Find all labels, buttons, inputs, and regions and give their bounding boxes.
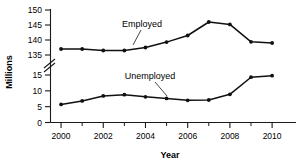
data-point (122, 93, 126, 97)
data-point (249, 75, 253, 79)
data-point (165, 97, 169, 101)
x-tick-label: 2008 (220, 131, 239, 141)
y-tick-label: 135 (28, 50, 42, 60)
data-point (228, 92, 232, 96)
data-point (270, 41, 274, 45)
y-tick-label: 5 (37, 102, 42, 112)
x-tick-label: 2010 (263, 131, 282, 141)
y-axis-title: Millions (4, 55, 14, 89)
data-series-group (59, 20, 274, 106)
data-point (101, 94, 105, 98)
data-point (144, 95, 148, 99)
y-tick-label: 0 (37, 118, 42, 128)
data-point (207, 20, 211, 24)
y-tick-label: 140 (28, 35, 42, 45)
y-tick-label: 150 (28, 5, 42, 15)
data-point (186, 34, 190, 38)
series-line-employed (61, 22, 272, 51)
series-employed (59, 20, 274, 52)
y-tick-label: 15 (33, 70, 43, 80)
x-tick-label: 2000 (52, 131, 71, 141)
data-point (101, 49, 105, 53)
x-axis: 200020022004200620082010 Year (51, 123, 297, 161)
leader-line-employed (133, 30, 141, 45)
y-axis: 051015135140145150 Millions (4, 5, 55, 128)
line-chart: 051015135140145150 Millions 200020022004… (0, 0, 301, 168)
data-point (59, 103, 63, 107)
axis-break-icon (44, 59, 55, 72)
data-point (186, 98, 190, 102)
x-axis-tick-labels: 200020022004200620082010 (52, 131, 282, 141)
data-point (165, 40, 169, 44)
data-point (59, 47, 63, 51)
data-point (80, 47, 84, 51)
x-axis-title: Year (160, 150, 180, 160)
series-label-unemployed: Unemployed (125, 71, 176, 81)
x-tick-label: 2002 (94, 131, 113, 141)
series-annotations: Employed Unemployed (122, 19, 175, 96)
data-point (249, 40, 253, 44)
chart-canvas: 051015135140145150 Millions 200020022004… (0, 0, 301, 168)
x-tick-label: 2006 (178, 131, 197, 141)
y-axis-tick-labels: 051015135140145150 (28, 5, 42, 128)
x-axis-ticks (61, 123, 272, 129)
x-tick-label: 2004 (136, 131, 155, 141)
data-point (270, 74, 274, 78)
data-point (144, 46, 148, 50)
data-point (122, 49, 126, 53)
series-label-employed: Employed (122, 19, 162, 29)
data-point (80, 99, 84, 103)
y-tick-label: 145 (28, 20, 42, 30)
data-point (207, 98, 211, 102)
data-point (228, 23, 232, 27)
y-tick-label: 10 (33, 86, 43, 96)
leader-line-unemployed (155, 82, 167, 96)
